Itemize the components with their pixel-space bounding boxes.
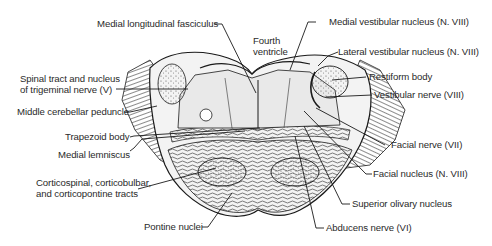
label-corticospinal-line2: and corticopontine tracts xyxy=(36,188,138,199)
label-middle-cerebellar-peduncle: Middle cerebellar peduncle xyxy=(17,106,129,117)
label-fourth-ventricle-line2: ventricle xyxy=(253,46,288,57)
label-facial-nucleus: Facial nucleus (N. VIII) xyxy=(373,168,468,179)
label-trapezoid-body: Trapezoid body xyxy=(65,131,129,142)
label-facial-nerve: Facial nerve (VII) xyxy=(391,139,462,150)
label-abducens-nerve: Abducens nerve (VI) xyxy=(326,222,412,233)
label-medial-lemniscus: Medial lemniscus xyxy=(58,149,130,160)
label-corticospinal-line1: Corticospinal, corticobulbar, xyxy=(36,177,151,188)
facial-nucleus-left xyxy=(200,109,212,121)
corticospinal-tract-left xyxy=(198,158,246,186)
spinal-trigeminal-nucleus xyxy=(158,64,186,104)
label-vestibular-nerve: Vestibular nerve (VIII) xyxy=(374,89,464,100)
label-spinal-tract-line1: Spinal tract and nucleus xyxy=(20,73,120,84)
label-lateral-vestibular-nucleus: Lateral vestibular nucleus (N. VIII) xyxy=(338,46,479,57)
pons-illustration xyxy=(0,0,492,246)
label-spinal-tract-line2: of trigeminal nerve (V) xyxy=(20,84,112,95)
label-medial-longitudinal-fasciculus: Medial longitudinal fasciculus xyxy=(97,18,218,29)
restiform-body xyxy=(312,66,348,98)
label-superior-olivary-nucleus: Superior olivary nucleus xyxy=(352,198,452,209)
label-restiform-body: Restiform body xyxy=(369,71,432,82)
label-pontine-nuclei: Pontine nuclei xyxy=(144,221,203,232)
pons-cross-section-diagram: Medial longitudinal fasciculus Fourth ve… xyxy=(0,0,492,246)
corticospinal-tract-right xyxy=(271,158,319,186)
label-medial-vestibular-nucleus: Medial vestibular nucleus (N. VIII) xyxy=(329,16,469,27)
label-fourth-ventricle-line1: Fourth xyxy=(253,35,280,46)
